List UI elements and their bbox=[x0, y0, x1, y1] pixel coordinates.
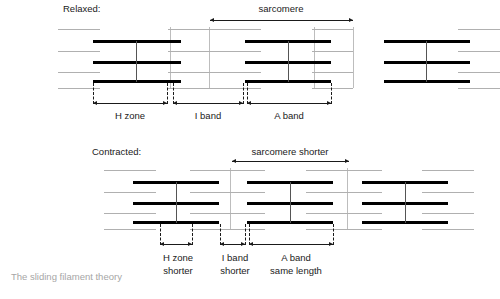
contracted-thin-filament bbox=[190, 213, 265, 214]
contracted-thin-filament bbox=[104, 229, 156, 230]
contracted-aband-label-line2: same length bbox=[270, 265, 322, 276]
relaxed-thin-filament bbox=[458, 72, 500, 73]
contracted-tick-aband-end bbox=[333, 224, 334, 245]
contracted-thin-filament bbox=[306, 213, 382, 214]
relaxed-sarcomere-arrow-right bbox=[349, 18, 353, 22]
contracted-thin-filament bbox=[104, 213, 156, 214]
relaxed-tick-hzone-end bbox=[167, 83, 168, 104]
relaxed-m-line bbox=[426, 41, 427, 82]
relaxed-sarcomere-arrow-left bbox=[210, 18, 214, 22]
relaxed-thin-filament bbox=[312, 51, 353, 52]
contracted-aband-arrow-left bbox=[249, 242, 253, 246]
contracted-m-line bbox=[176, 182, 177, 223]
relaxed-sarcomere-arrow-line bbox=[210, 20, 353, 21]
relaxed-sarcomere-label: sarcomere bbox=[259, 3, 304, 14]
relaxed-thin-filament bbox=[458, 29, 500, 30]
relaxed-aband-measure-line bbox=[247, 103, 331, 104]
contracted-thin-filament bbox=[190, 170, 265, 171]
contracted-z-line-1 bbox=[230, 168, 231, 229]
contracted-iband-arrow-left bbox=[220, 242, 224, 246]
relaxed-hzone-measure-line bbox=[93, 103, 167, 104]
contracted-z-line-2 bbox=[347, 168, 348, 229]
contracted-sarcomere-arrow-line bbox=[232, 161, 349, 162]
contracted-hzone-arrow-right bbox=[188, 242, 192, 246]
contracted-thin-filament bbox=[422, 229, 474, 230]
contracted-iband-label-line2: shorter bbox=[220, 265, 250, 276]
relaxed-aband-arrow-left bbox=[247, 101, 251, 105]
relaxed-iband-label: I band bbox=[195, 110, 221, 121]
relaxed-thin-filament bbox=[168, 72, 261, 73]
contracted-thin-filament bbox=[422, 170, 474, 171]
relaxed-thin-filament bbox=[58, 72, 100, 73]
relaxed-tick-iband-end bbox=[243, 83, 244, 104]
relaxed-thin-filament bbox=[312, 29, 353, 30]
contracted-tick-hzone-end bbox=[192, 224, 193, 245]
relaxed-hzone-arrow-right bbox=[163, 101, 167, 105]
contracted-sarcomere-arrow-right bbox=[345, 159, 349, 163]
relaxed-iband-arrow-right bbox=[239, 101, 243, 105]
figure-caption: The sliding filament theory bbox=[11, 271, 122, 282]
relaxed-thin-filament bbox=[58, 29, 100, 30]
contracted-hzone-label-line2: shorter bbox=[163, 265, 193, 276]
contracted-aband-measure-line bbox=[249, 244, 333, 245]
contracted-hzone-arrow-left bbox=[160, 242, 164, 246]
relaxed-thin-filament bbox=[168, 51, 261, 52]
relaxed-hzone-arrow-left bbox=[93, 101, 97, 105]
contracted-thin-filament bbox=[190, 192, 265, 193]
contracted-state-label: Contracted: bbox=[92, 146, 141, 157]
relaxed-iband-arrow-left bbox=[173, 101, 177, 105]
relaxed-aband-label: A band bbox=[274, 110, 304, 121]
contracted-aband-arrow-right bbox=[329, 242, 333, 246]
contracted-thin-filament bbox=[306, 170, 382, 171]
relaxed-thin-filament bbox=[312, 72, 353, 73]
contracted-hzone-label-line1: H zone bbox=[163, 252, 193, 263]
contracted-sarcomere-label: sarcomere shorter bbox=[251, 146, 328, 157]
relaxed-m-line bbox=[288, 41, 289, 82]
contracted-aband-label-line1: A band bbox=[281, 252, 311, 263]
relaxed-tick-aband-end bbox=[331, 83, 332, 104]
relaxed-thin-filament bbox=[168, 29, 261, 30]
relaxed-z-line-1 bbox=[170, 27, 171, 88]
contracted-thin-filament bbox=[104, 192, 156, 193]
contracted-iband-arrow-right bbox=[241, 242, 245, 246]
relaxed-thin-filament bbox=[458, 51, 500, 52]
relaxed-z-line-2 bbox=[209, 27, 210, 88]
contracted-iband-label-line1: I band bbox=[222, 252, 248, 263]
relaxed-state-label: Relaxed: bbox=[63, 3, 101, 14]
contracted-sarcomere-arrow-left bbox=[232, 159, 236, 163]
relaxed-thin-filament bbox=[458, 88, 500, 89]
relaxed-m-line bbox=[136, 41, 137, 82]
relaxed-thin-filament bbox=[58, 51, 100, 52]
contracted-thin-filament bbox=[104, 170, 156, 171]
contracted-thin-filament bbox=[190, 229, 265, 230]
relaxed-z-line-4 bbox=[353, 27, 354, 88]
relaxed-iband-measure-line bbox=[173, 103, 243, 104]
relaxed-aband-arrow-right bbox=[327, 101, 331, 105]
contracted-thin-filament bbox=[306, 229, 382, 230]
contracted-thin-filament bbox=[422, 213, 474, 214]
contracted-m-line bbox=[405, 182, 406, 223]
relaxed-hzone-label: H zone bbox=[115, 110, 145, 121]
contracted-thin-filament bbox=[306, 192, 382, 193]
relaxed-thin-filament bbox=[312, 88, 353, 89]
contracted-tick-iband-end bbox=[245, 224, 246, 245]
contracted-m-line bbox=[290, 182, 291, 223]
contracted-thin-filament bbox=[422, 192, 474, 193]
relaxed-z-line-3 bbox=[314, 27, 315, 88]
